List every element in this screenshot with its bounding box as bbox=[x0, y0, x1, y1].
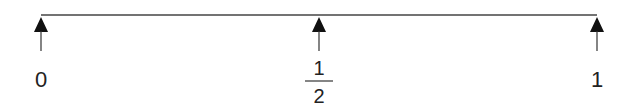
label-half-denominator: 2 bbox=[313, 85, 324, 107]
label-one: 1 bbox=[591, 67, 603, 92]
arrow-marker-1 bbox=[590, 17, 604, 51]
label-zero: 0 bbox=[35, 67, 47, 92]
arrow-marker-0 bbox=[34, 17, 48, 51]
number-line-diagram: 0 1 2 1 bbox=[0, 0, 633, 110]
arrow-marker-half bbox=[312, 17, 326, 51]
label-half-numerator: 1 bbox=[313, 57, 324, 79]
